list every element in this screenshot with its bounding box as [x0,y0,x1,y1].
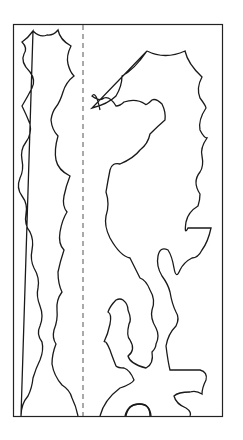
right-figure-piece [92,51,211,416]
cutout-diagram [0,0,243,440]
frame-border [14,25,223,417]
bottom-arch [125,404,151,416]
template-canvas [0,0,243,440]
left-column-piece [18,30,78,416]
